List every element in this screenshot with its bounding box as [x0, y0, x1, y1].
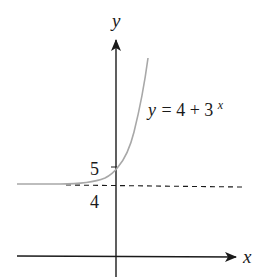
- x-axis-label: x: [242, 246, 252, 267]
- tick-label-5: 5: [90, 159, 99, 179]
- exponential-curve: [17, 58, 148, 184]
- equation-label: y = 4 + 3 x: [146, 98, 224, 120]
- equation-y: y: [146, 100, 156, 120]
- asymptote-line: [66, 185, 242, 187]
- graph-canvas: y x 5 4 y = 4 + 3 x: [0, 0, 257, 277]
- tick-label-4: 4: [90, 192, 99, 212]
- equation-rest: = 4 + 3: [162, 100, 214, 120]
- y-axis-label: y: [110, 10, 121, 31]
- equation-exponent: x: [217, 98, 224, 112]
- x-axis: [17, 256, 236, 257]
